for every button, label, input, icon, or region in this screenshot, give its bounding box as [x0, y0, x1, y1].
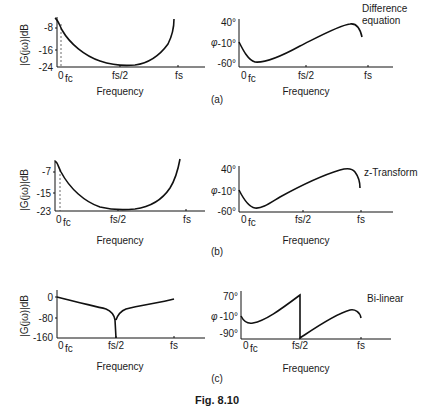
- x-tick-label: 0: [243, 340, 249, 351]
- y-tick-label: -90°: [220, 328, 238, 339]
- panel-a-magnitude-plot: |G(jω)|dB -8 -16 -24 0 fc fs/2 fs Freque…: [19, 17, 205, 97]
- x-tick-label: 0: [58, 340, 64, 351]
- x-tick-label: fs/2: [110, 214, 127, 225]
- y-axis-label: |G(jω)|dB: [19, 295, 30, 337]
- x-tick-label: fs/2: [292, 340, 309, 351]
- x-tick-label: 0: [56, 214, 62, 225]
- y-tick-label: 40°: [221, 164, 236, 175]
- x-tick-label: fs: [357, 214, 365, 225]
- y-tick-label: -160: [33, 332, 53, 343]
- panel-label: (b): [211, 246, 223, 257]
- fc-subscript: fc: [248, 73, 256, 84]
- panel-a: |G(jω)|dB -8 -16 -24 0 fc fs/2 fs Freque…: [19, 3, 408, 105]
- figure-caption: Fig. 8.10: [195, 394, 239, 406]
- fc-subscript: fc: [63, 217, 71, 228]
- panel-b-phase-plot: φ 40° -10° -60° 0 fc fs/2 fs Frequency z…: [211, 164, 418, 246]
- x-axis-label: Frequency: [282, 235, 329, 246]
- phase-curve: [239, 24, 362, 62]
- method-label: Bi-linear: [367, 293, 404, 304]
- y-tick-label: -10°: [218, 38, 236, 49]
- panel-b: |G(jω)|dB -7 -15 -23 0 fc fs/2 fs Freque…: [19, 159, 418, 257]
- y-tick-label: 70°: [223, 291, 238, 302]
- magnitude-curve: [57, 297, 174, 338]
- y-tick-label: -60°: [218, 206, 236, 217]
- panel-label: (a): [211, 94, 223, 105]
- panel-c: |G(jω)|dB 0 -80 -160 0 fc fs/2 fs Freque…: [19, 290, 404, 384]
- y-tick-label: -7: [42, 166, 51, 177]
- fc-subscript: fc: [248, 217, 256, 228]
- x-tick-label: fs: [183, 214, 191, 225]
- x-tick-label: fs/2: [298, 70, 315, 81]
- x-axis-label: Frequency: [282, 363, 329, 374]
- phase-curve: [241, 295, 361, 338]
- y-tick-label: -15: [37, 188, 52, 199]
- x-axis-label: Frequency: [96, 361, 143, 372]
- y-tick-label: -60°: [218, 58, 236, 69]
- x-tick-label: 0: [241, 70, 247, 81]
- x-tick-label: fs: [364, 70, 372, 81]
- y-tick-label: -16: [39, 45, 54, 56]
- y-axis-label: |G(jω)|dB: [19, 24, 30, 66]
- x-axis-label: Frequency: [282, 86, 329, 97]
- phase-curve: [239, 169, 360, 208]
- panel-c-phase-plot: φ 70° -10° -90° 0 fc fs/2 fs Frequency B…: [211, 291, 404, 374]
- x-axis-label: Frequency: [96, 86, 143, 97]
- y-axis-label: φ: [211, 311, 218, 322]
- x-tick-label: fs: [357, 340, 365, 351]
- panel-b-magnitude-plot: |G(jω)|dB -7 -15 -23 0 fc fs/2 fs Freque…: [19, 159, 205, 246]
- magnitude-curve: [55, 159, 180, 210]
- fc-subscript: fc: [65, 343, 73, 354]
- figure-canvas: |G(jω)|dB -8 -16 -24 0 fc fs/2 fs Freque…: [0, 0, 434, 419]
- y-tick-label: 0: [47, 292, 53, 303]
- x-tick-label: fs: [170, 340, 178, 351]
- x-tick-label: fs/2: [108, 340, 125, 351]
- y-tick-label: 40°: [221, 17, 236, 28]
- fc-subscript: fc: [65, 73, 73, 84]
- method-label: z-Transform: [364, 167, 418, 178]
- method-label: equation: [362, 15, 400, 26]
- y-tick-label: -80: [39, 313, 54, 324]
- x-tick-label: 0: [241, 214, 247, 225]
- y-tick-label: -23: [37, 206, 52, 217]
- panel-c-magnitude-plot: |G(jω)|dB 0 -80 -160 0 fc fs/2 fs Freque…: [19, 290, 205, 372]
- x-tick-label: fs/2: [112, 70, 129, 81]
- y-tick-label: -10°: [218, 186, 236, 197]
- panel-a-phase-plot: φ 40° -10° -60° 0 fc fs/2 fs Frequency D…: [211, 3, 408, 97]
- panel-label: (c): [211, 373, 223, 384]
- y-tick-label: -8: [44, 22, 53, 33]
- x-tick-label: fs: [175, 70, 183, 81]
- y-tick-label: -10°: [220, 311, 238, 322]
- method-label: Difference: [362, 3, 408, 14]
- x-tick-label: 0: [58, 70, 64, 81]
- x-axis-label: Frequency: [96, 235, 143, 246]
- x-tick-label: fs/2: [295, 214, 312, 225]
- y-tick-label: -24: [39, 62, 54, 73]
- magnitude-curve: [55, 18, 174, 65]
- fc-subscript: fc: [250, 343, 258, 354]
- y-axis-label: |G(jω)|dB: [19, 169, 30, 211]
